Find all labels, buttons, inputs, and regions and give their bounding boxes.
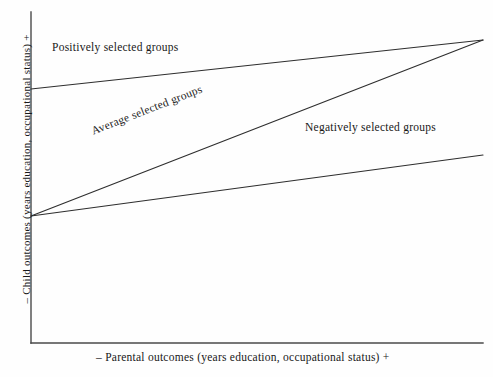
chart-figure: – Child outcomes (years education, occup… [0,0,493,377]
y-axis-label: – Child outcomes (years education, occup… [21,44,32,304]
plot-canvas [0,0,493,377]
series-label-positively-selected-groups: Positively selected groups [52,42,179,54]
x-axis-label: – Parental outcomes (years education, oc… [96,352,390,364]
series-label-negatively-selected-groups: Negatively selected groups [305,122,436,134]
line-negatively-selected-groups [31,155,483,216]
